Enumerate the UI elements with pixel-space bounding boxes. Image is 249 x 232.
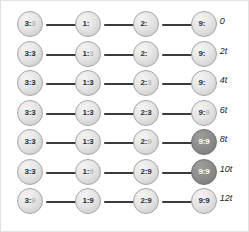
- tau-value: 2t: [220, 46, 228, 56]
- node-label-suffix: 9: [89, 167, 93, 176]
- chain-node[interactable]: 1:3: [75, 129, 101, 155]
- node-label: 9:9: [199, 168, 210, 176]
- node-label: 3:3: [25, 168, 36, 176]
- chain-link: [162, 172, 193, 174]
- node-label-suffix: 9: [147, 167, 151, 176]
- node-label-suffix: 3: [89, 78, 93, 87]
- node-label-suffix: 3: [147, 78, 151, 87]
- chain-node[interactable]: 1:9: [75, 159, 101, 185]
- chain-link: [46, 54, 77, 56]
- chain-node[interactable]: 3:3: [17, 41, 43, 67]
- node-chain: 3:31:32:39:9: [13, 99, 189, 128]
- node-label-suffix: 3: [147, 108, 151, 117]
- chain-link: [46, 142, 77, 144]
- chain-node[interactable]: 2:9: [133, 129, 159, 155]
- chain-node[interactable]: 2:3: [133, 70, 159, 96]
- chain-node[interactable]: 1:3: [75, 11, 101, 37]
- chain-node[interactable]: 2:3: [133, 100, 159, 126]
- chain-node[interactable]: 3:3: [17, 100, 43, 126]
- node-chain: 3:31:32:39:9: [13, 10, 189, 39]
- node-label: 2:9: [141, 197, 152, 205]
- node-label: 9:9: [199, 79, 210, 87]
- node-label-suffix: 9: [147, 196, 151, 205]
- node-label-suffix: 9: [205, 49, 209, 58]
- tau-value: 4t: [220, 75, 228, 85]
- node-label: 9:9: [199, 197, 210, 205]
- node-label-suffix: 9: [205, 108, 209, 117]
- chain-node[interactable]: 3:3: [17, 70, 43, 96]
- tau-value: 8t: [220, 134, 228, 144]
- chain-node[interactable]: 3:9: [17, 188, 43, 214]
- chain-link: [162, 54, 193, 56]
- chain-node[interactable]: 1:3: [75, 100, 101, 126]
- node-label: 1:3: [83, 138, 94, 146]
- chain-link: [46, 201, 77, 203]
- node-label: 3:3: [25, 138, 36, 146]
- node-label-suffix: 9: [147, 137, 151, 146]
- node-label: 2:3: [141, 20, 152, 28]
- node-label: 3:3: [25, 79, 36, 87]
- chain-node[interactable]: 3:3: [17, 159, 43, 185]
- node-label: 1:3: [83, 79, 94, 87]
- node-label-suffix: 9: [89, 196, 93, 205]
- chain-node[interactable]: 3:3: [17, 11, 43, 37]
- chain-link: [104, 201, 135, 203]
- chain-node[interactable]: 3:3: [17, 129, 43, 155]
- node-label-suffix: 9: [205, 167, 209, 176]
- node-label: 1:3: [83, 50, 94, 58]
- node-label: 1:3: [83, 20, 94, 28]
- chain-node[interactable]: 9:9: [191, 11, 217, 37]
- chain-link: [104, 54, 135, 56]
- node-label-suffix: 3: [89, 49, 93, 58]
- chain-node[interactable]: 1:3: [75, 70, 101, 96]
- chain-node[interactable]: 2:9: [133, 188, 159, 214]
- chain-link: [46, 113, 77, 115]
- node-label-suffix: 3: [31, 108, 35, 117]
- chain-link: [104, 24, 135, 26]
- diagram-row: 3:31:32:39:9τ = 0: [1, 10, 249, 39]
- chain-node[interactable]: 9:9: [191, 41, 217, 67]
- chain-link: [46, 24, 77, 26]
- chain-link: [162, 24, 193, 26]
- chain-link: [46, 83, 77, 85]
- chain-node[interactable]: 9:9: [191, 188, 217, 214]
- node-chain: 3:91:92:99:9: [13, 187, 189, 216]
- node-label: 3:3: [25, 20, 36, 28]
- node-label-suffix: 3: [31, 49, 35, 58]
- diagram-row: 3:31:32:39:9τ = 4t: [1, 69, 249, 98]
- node-label-suffix: 3: [31, 19, 35, 28]
- chain-node[interactable]: 2:9: [133, 159, 159, 185]
- node-label-suffix: 3: [89, 108, 93, 117]
- tau-value: 12t: [220, 193, 233, 203]
- diagram-row: 3:31:32:99:9τ = 8t: [1, 128, 249, 157]
- chain-node[interactable]: 9:9: [191, 159, 217, 185]
- diagram-row: 3:31:32:39:9τ = 6t: [1, 99, 249, 128]
- node-label-suffix: 3: [147, 19, 151, 28]
- chain-link: [162, 83, 193, 85]
- node-label: 3:9: [25, 197, 36, 205]
- node-label: 2:3: [141, 50, 152, 58]
- node-label: 1:9: [83, 197, 94, 205]
- node-label: 9:9: [199, 138, 210, 146]
- node-label: 2:3: [141, 109, 152, 117]
- node-label-suffix: 9: [205, 137, 209, 146]
- tau-value: 0: [220, 16, 225, 26]
- chain-node[interactable]: 9:9: [191, 129, 217, 155]
- node-label: 2:9: [141, 138, 152, 146]
- node-label: 9:9: [199, 20, 210, 28]
- diagram-rows: 3:31:32:39:9τ = 03:31:32:39:9τ = 2t3:31:…: [1, 1, 249, 232]
- node-label-suffix: 3: [31, 137, 35, 146]
- node-label-suffix: 3: [89, 137, 93, 146]
- chain-node[interactable]: 1:9: [75, 188, 101, 214]
- chain-node[interactable]: 1:3: [75, 41, 101, 67]
- diagram-figure: 3:31:32:39:9τ = 03:31:32:39:9τ = 2t3:31:…: [0, 0, 249, 232]
- chain-node[interactable]: 2:3: [133, 41, 159, 67]
- chain-link: [104, 113, 135, 115]
- node-label: 3:3: [25, 109, 36, 117]
- node-label-suffix: 3: [31, 167, 35, 176]
- chain-node[interactable]: 9:9: [191, 70, 217, 96]
- chain-node[interactable]: 2:3: [133, 11, 159, 37]
- chain-link: [162, 113, 193, 115]
- chain-node[interactable]: 9:9: [191, 100, 217, 126]
- node-label-suffix: 9: [205, 78, 209, 87]
